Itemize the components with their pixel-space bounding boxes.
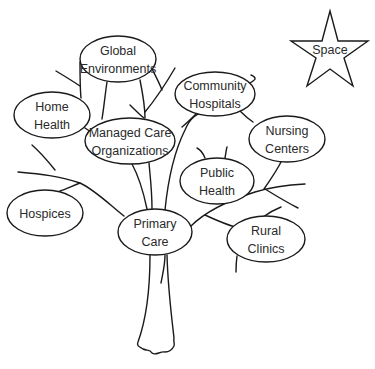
node-label-line1: Rural (251, 224, 281, 238)
star-label: Space (312, 43, 347, 57)
healthcare-tree-diagram: Space Global Environments Home Health Ma… (0, 0, 375, 369)
node-label-line2: Centers (265, 142, 309, 156)
node-label-line1: Global (100, 44, 136, 58)
node-label-line1: Hospices (19, 207, 70, 221)
node-label-line2: Health (199, 184, 235, 198)
node-hospices: Hospices (7, 190, 83, 236)
node-label-line2: Health (34, 118, 70, 132)
node-label-line1: Primary (133, 217, 177, 231)
node-label-line2: Care (141, 235, 168, 249)
node-label-line1: Community (183, 79, 247, 93)
node-label-line1: Public (200, 166, 234, 180)
node-label-line2: Organizations (91, 144, 168, 158)
node-home-health: Home Health (14, 92, 90, 138)
node-managed-care-organizations: Managed Care Organizations (85, 118, 175, 164)
node-primary-care: Primary Care (118, 209, 192, 255)
node-global-environments: Global Environments (80, 36, 156, 82)
node-label-line2: Environments (80, 62, 156, 76)
node-label-line1: Managed Care (89, 126, 172, 140)
node-label-line2: Hospitals (189, 97, 240, 111)
node-label-line1: Nursing (265, 124, 308, 138)
tree-trunk (137, 255, 174, 354)
space-star: Space (291, 11, 368, 86)
node-nursing-centers: Nursing Centers (249, 116, 325, 162)
node-community-hospitals: Community Hospitals (175, 72, 255, 116)
node-public-health: Public Health (180, 158, 254, 204)
node-label-line1: Home (35, 100, 68, 114)
node-rural-clinics: Rural Clinics (227, 216, 305, 262)
node-label-line2: Clinics (248, 242, 285, 256)
